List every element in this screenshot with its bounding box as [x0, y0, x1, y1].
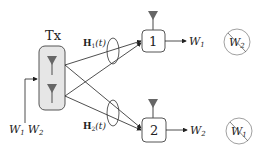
tx-label: Tx	[45, 28, 62, 43]
input-arrow	[25, 79, 37, 123]
mimo-broadcast-diagram: Tx W1W2 H1(t) H2(t)	[0, 0, 256, 153]
rx1-antenna-icon	[148, 11, 158, 30]
transmitter: Tx	[39, 28, 65, 110]
channel-2-ellipse	[107, 100, 119, 126]
channel-2-label: H2(t)	[83, 121, 106, 132]
channel-links	[65, 41, 141, 130]
rx1-label: 1	[149, 34, 157, 49]
rx2-desired-label: W2	[190, 124, 206, 138]
channel-1-label: H1(t)	[83, 38, 106, 49]
rx2-antenna-icon	[148, 99, 158, 118]
receiver-2: 2 W2 W1	[142, 99, 252, 144]
rx2-label: 2	[150, 123, 158, 138]
rx1-desired-label: W1	[189, 35, 205, 49]
input-messages-label: W1W2	[9, 123, 44, 137]
receiver-1: 1 W1 W2	[142, 11, 250, 55]
